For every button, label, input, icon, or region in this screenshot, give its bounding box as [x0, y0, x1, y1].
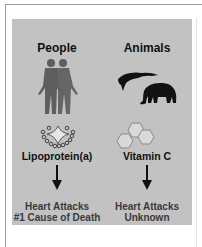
animals-outcome: Heart Attacks Unknown	[96, 201, 198, 223]
vitamin-c-label: Vitamin C	[102, 150, 192, 162]
human-figures-icon	[30, 58, 86, 116]
shark-and-elephant-icon	[116, 69, 180, 111]
animals-column: Animals Vitamin C	[102, 19, 192, 225]
lipoprotein-label: Lipoprotein(a)	[12, 150, 102, 162]
animals-outcome-line2: Unknown	[96, 212, 198, 223]
comparison-panel: People	[12, 19, 192, 225]
people-outcome: Heart Attacks #1 Cause of Death	[6, 201, 108, 223]
animals-heading: Animals	[102, 41, 192, 55]
animals-outcome-line1: Heart Attacks	[96, 201, 198, 212]
people-outcome-line1: Heart Attacks	[6, 201, 108, 212]
down-arrow-icon	[52, 165, 62, 191]
people-heading: People	[12, 41, 102, 55]
frame-top-border	[5, 4, 202, 5]
down-arrow-icon	[142, 165, 152, 191]
vitamin-c-hexagon-icon	[115, 122, 157, 150]
people-outcome-line2: #1 Cause of Death	[6, 212, 108, 223]
lipoprotein-molecule-icon	[39, 123, 77, 149]
people-column: People	[12, 19, 102, 225]
